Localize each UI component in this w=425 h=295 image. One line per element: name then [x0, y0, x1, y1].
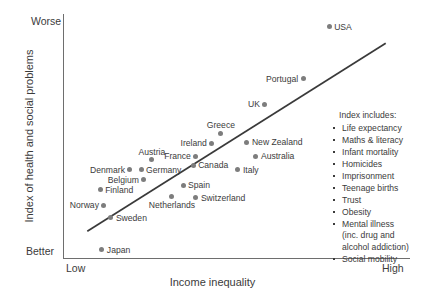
data-point-label: Denmark — [90, 166, 125, 175]
bullet-icon — [333, 187, 335, 189]
legend-item: Obesity — [331, 207, 423, 218]
bullet-icon — [333, 175, 335, 177]
legend-item: Maths & literacy — [331, 135, 423, 146]
data-point-label: UK — [248, 100, 260, 109]
data-point — [193, 154, 198, 159]
y-axis-tick-worse: Worse — [31, 15, 61, 27]
legend-item-label: Trust — [342, 195, 361, 205]
y-axis-title: Index of health and social problems — [23, 11, 35, 261]
legend-item-label-continued: (inc. drug and — [342, 230, 423, 241]
legend-item: Life expectancy — [331, 123, 423, 134]
bullet-icon — [333, 151, 335, 153]
legend-item-label: Imprisonment — [342, 171, 394, 181]
bullet-icon — [333, 139, 335, 141]
data-point-label: Italy — [243, 166, 259, 175]
data-point — [301, 76, 306, 81]
data-point — [191, 163, 196, 168]
data-point-label: Switzerland — [201, 194, 245, 203]
data-point-label: Canada — [198, 161, 228, 170]
data-point-label: Greece — [207, 121, 235, 130]
legend-item-label: Mental illness — [342, 219, 394, 229]
bullet-icon — [333, 211, 335, 213]
data-point — [327, 24, 332, 29]
data-point — [181, 183, 186, 188]
legend-list: Life expectancyMaths & literacyInfant mo… — [331, 123, 423, 265]
data-point-label: Spain — [188, 181, 210, 190]
legend-item-label: Maths & literacy — [342, 135, 403, 145]
legend-item-label: Life expectancy — [342, 123, 402, 133]
bullet-icon — [333, 127, 335, 129]
legend-item: Homicides — [331, 159, 423, 170]
data-point — [98, 187, 103, 192]
legend-item-label: Obesity — [342, 207, 371, 217]
data-point-label: Austria — [138, 148, 165, 157]
bullet-icon — [333, 223, 335, 225]
data-point — [101, 203, 106, 208]
data-point — [253, 154, 258, 159]
data-point — [262, 102, 267, 107]
x-axis-title: Income inequality — [0, 276, 425, 288]
data-point-label: Germany — [146, 166, 181, 175]
legend-item-label: Homicides — [342, 159, 382, 169]
data-point — [218, 131, 223, 136]
data-point-label: Ireland — [181, 139, 207, 148]
data-point — [139, 167, 144, 172]
data-point-label: Sweden — [116, 214, 147, 223]
legend-item: Imprisonment — [331, 171, 423, 182]
data-point — [235, 167, 240, 172]
data-point-label: France — [164, 152, 191, 161]
data-point-label: Belgium — [108, 176, 139, 185]
data-point — [209, 141, 214, 146]
data-point — [108, 215, 113, 220]
legend-item: Teenage births — [331, 183, 423, 194]
legend: Index includes: Life expectancyMaths & l… — [331, 110, 423, 265]
data-point-label: Netherlands — [149, 201, 195, 210]
legend-item-label: Teenage births — [342, 183, 398, 193]
data-point — [127, 167, 132, 172]
data-point-label: Norway — [70, 201, 99, 210]
x-axis-tick-low: Low — [66, 262, 85, 274]
legend-item: Trust — [331, 195, 423, 206]
data-point-label: Australia — [261, 152, 294, 161]
data-point — [99, 247, 104, 252]
bullet-icon — [333, 258, 335, 260]
legend-item: Social mobility — [331, 254, 423, 265]
legend-item-label-continued: alcohol addiction) — [342, 242, 423, 253]
data-point-label: Finland — [105, 186, 133, 195]
bullet-icon — [333, 199, 335, 201]
legend-item: Mental illness(inc. drug andalcohol addi… — [331, 219, 423, 253]
data-point-label: Portugal — [266, 75, 298, 84]
data-point-label: USA — [334, 23, 352, 32]
data-point — [149, 157, 154, 162]
data-point — [141, 177, 146, 182]
legend-item: Infant mortality — [331, 147, 423, 158]
scatter-chart: Worse Better Low High Income inequality … — [0, 0, 425, 295]
legend-item-label: Social mobility — [342, 254, 397, 264]
data-point-label: Japan — [107, 246, 130, 255]
legend-item-label: Infant mortality — [342, 147, 398, 157]
data-point — [169, 194, 174, 199]
bullet-icon — [333, 163, 335, 165]
legend-title: Index includes: — [339, 110, 423, 121]
y-axis-line — [63, 14, 64, 259]
data-point-label: New Zealand — [252, 138, 303, 147]
data-point — [244, 140, 249, 145]
